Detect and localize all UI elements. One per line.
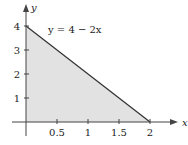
x-axis-label: x xyxy=(182,117,188,128)
y-tick-label: 2 xyxy=(14,69,20,80)
x-axis-arrow-icon xyxy=(170,119,178,125)
x-tick-label: 2 xyxy=(147,127,153,138)
chart: 0.511.521234xyy = 4 − 2x xyxy=(0,0,188,145)
y-tick-label: 3 xyxy=(14,45,20,56)
equation-annotation: y = 4 − 2x xyxy=(47,24,102,35)
y-tick-label: 4 xyxy=(14,21,20,32)
y-axis-arrow-icon xyxy=(23,4,29,12)
x-tick-label: 0.5 xyxy=(49,127,65,138)
y-axis-label: y xyxy=(30,2,37,13)
x-tick-label: 1.5 xyxy=(111,127,127,138)
y-tick-label: 1 xyxy=(14,93,20,104)
x-tick-label: 1 xyxy=(85,127,91,138)
